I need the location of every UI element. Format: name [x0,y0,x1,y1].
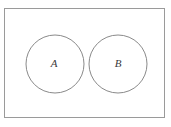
set-b-label: B [115,57,122,69]
venn-diagram-canvas: A B [0,0,171,127]
universe-rectangle [5,9,165,118]
set-a-label: A [50,57,58,69]
venn-diagram-figure: A B [0,0,171,127]
